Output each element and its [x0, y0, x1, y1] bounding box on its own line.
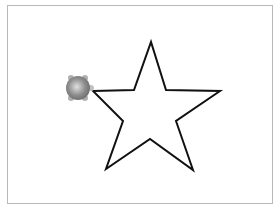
drawing-layer: [0, 0, 277, 208]
star-shape: [93, 42, 220, 170]
turtle-icon[interactable]: [66, 75, 94, 101]
